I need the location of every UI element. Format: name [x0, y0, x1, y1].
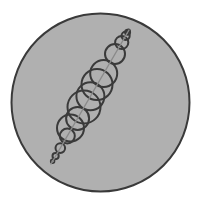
geometric-figure: [0, 0, 201, 206]
figure-canvas: [0, 0, 201, 206]
